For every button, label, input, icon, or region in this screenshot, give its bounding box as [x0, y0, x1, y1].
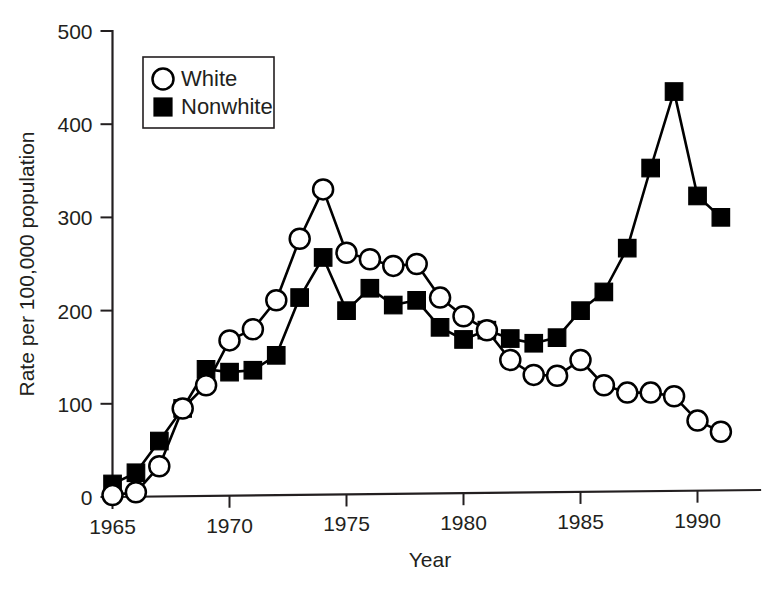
x-axis-line: [113, 490, 761, 497]
data-point: [126, 482, 146, 502]
data-point: [500, 350, 520, 370]
data-point: [127, 464, 145, 482]
data-point: [361, 280, 379, 298]
x-axis-title: Year: [409, 548, 451, 571]
data-point: [711, 422, 731, 442]
series-line-white: [113, 189, 721, 495]
series-line-nonwhite: [113, 92, 721, 484]
data-point: [619, 239, 637, 257]
data-point: [360, 249, 380, 269]
data-point: [430, 288, 450, 308]
y-axis-tick-label: 100: [57, 393, 92, 416]
data-point: [572, 302, 590, 320]
data-point: [407, 254, 427, 274]
data-point: [477, 320, 497, 340]
y-axis-tick-label: 0: [81, 486, 93, 509]
data-point: [196, 375, 216, 395]
data-point: [502, 330, 520, 348]
data-point: [431, 319, 449, 337]
data-point: [173, 399, 193, 419]
data-point: [571, 350, 591, 370]
data-point: [547, 366, 567, 386]
y-axis-tick-label: 500: [57, 20, 92, 43]
y-axis-title: Rate per 100,000 population: [15, 131, 38, 396]
data-point: [689, 187, 707, 205]
data-point: [595, 283, 613, 301]
data-point: [617, 383, 637, 403]
data-point: [642, 159, 660, 177]
x-axis-tick-label: 1970: [206, 514, 253, 537]
data-point: [524, 365, 544, 385]
data-point: [454, 306, 474, 326]
y-axis-tick-label: 400: [57, 113, 92, 136]
y-axis-tick-labels: 0100200300400500: [57, 20, 92, 509]
data-point: [665, 83, 683, 101]
series-nonwhite: [104, 83, 730, 493]
data-point: [220, 330, 240, 350]
legend-label-nonwhite: Nonwhite: [181, 94, 273, 119]
data-point: [641, 383, 661, 403]
x-axis-tick-label: 1985: [557, 510, 604, 533]
data-point: [268, 347, 286, 365]
series-layer: [103, 83, 731, 505]
data-point: [548, 329, 566, 347]
data-point: [244, 362, 262, 380]
data-point: [266, 290, 286, 310]
data-point: [290, 229, 310, 249]
data-point: [664, 386, 684, 406]
data-point: [408, 292, 426, 310]
line-chart: 0100200300400500 19651970197519801985199…: [0, 0, 777, 590]
data-point: [151, 432, 169, 450]
data-point: [385, 296, 403, 314]
data-point: [149, 456, 169, 476]
y-axis-tick-label: 200: [57, 300, 92, 323]
chart-legend: White Nonwhite: [143, 57, 274, 128]
data-point: [313, 179, 333, 199]
data-point: [338, 302, 356, 320]
legend-label-white: White: [181, 66, 237, 91]
data-point: [594, 375, 614, 395]
data-point: [243, 319, 263, 339]
x-axis-tick-label: 1990: [674, 509, 721, 532]
y-axis-tick-label: 300: [57, 206, 92, 229]
data-point: [525, 335, 543, 353]
x-axis-tick-label: 1975: [323, 512, 370, 535]
chart-container: 0100200300400500 19651970197519801985199…: [0, 0, 777, 590]
data-point: [383, 256, 403, 276]
x-axis-tick-labels: 196519701975198019851990: [89, 509, 721, 538]
data-point: [712, 209, 730, 227]
data-point: [337, 243, 357, 263]
data-point: [103, 485, 123, 505]
data-point: [455, 331, 473, 349]
legend-marker-nonwhite-icon: [154, 98, 172, 116]
data-point: [314, 249, 332, 267]
series-white: [103, 179, 731, 505]
data-point: [291, 289, 309, 307]
y-axis-ticks: [101, 31, 113, 497]
data-point: [221, 363, 239, 381]
x-axis-tick-label: 1965: [89, 515, 136, 538]
legend-marker-white-icon: [153, 69, 174, 90]
x-axis-tick-label: 1980: [440, 511, 487, 534]
data-point: [688, 411, 708, 431]
